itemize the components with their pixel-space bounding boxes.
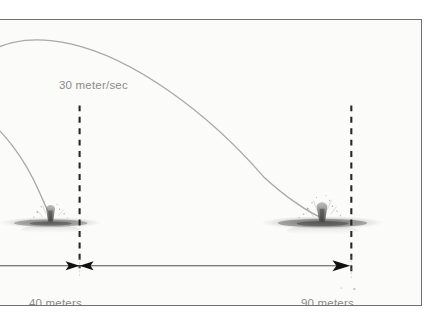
projectile-trajectory-figure: 30 meter/sec 40 meters 90 meters bbox=[0, 0, 443, 325]
range-label-left: 40 meters bbox=[29, 297, 82, 306]
measure-ticks bbox=[80, 256, 356, 290]
impact-splash-left bbox=[0, 201, 102, 233]
figure-panel: 30 meter/sec 40 meters 90 meters bbox=[0, 19, 422, 306]
trajectory-path-long bbox=[0, 40, 321, 218]
launch-speed-label: 30 meter/sec bbox=[59, 79, 128, 91]
trajectory-path-short bbox=[0, 115, 51, 217]
range-label-right: 90 meters bbox=[301, 297, 354, 306]
impact-splash-right bbox=[261, 195, 384, 235]
trajectory-illustration bbox=[0, 20, 421, 305]
